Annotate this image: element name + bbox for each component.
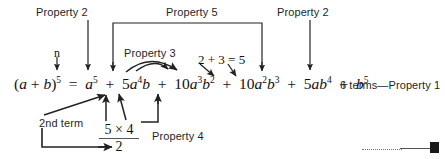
fraction-five-times-four-over-two: 5 × 4 2: [99, 122, 139, 154]
diagram-canvas: Property 2 Property 5 Property 2 Propert…: [0, 0, 445, 159]
binomial-equation: (a + b)5 = a5 + 5a4b + 10a3b2 + 10a2b3 +…: [14, 76, 369, 92]
label-property-2-left: Property 2: [36, 6, 88, 18]
label-sum-check: 2 + 3 = 5: [198, 52, 245, 67]
label-property-4: Property 4: [152, 130, 204, 142]
connector-fraction-to-third-term: [141, 95, 158, 122]
arrow-second-term-to-coefficient: [44, 95, 105, 115]
label-n-exponent: n: [54, 46, 60, 61]
equation-term-4: 10a2b3: [239, 75, 280, 92]
dotted-rule: [362, 149, 402, 150]
label-second-term: 2nd term: [39, 117, 83, 129]
fraction-numerator: 5 × 4: [99, 122, 139, 137]
solid-rule: [400, 148, 431, 149]
label-property-3: Property 3: [124, 47, 176, 59]
arc-property-3-outer: [126, 61, 177, 72]
equation-plus-2: +: [154, 75, 171, 92]
equation-term-3: 10a3b2: [174, 75, 215, 92]
label-property-5: Property 5: [166, 6, 218, 18]
equation-plus-3: +: [219, 75, 236, 92]
equation-equals: =: [65, 75, 82, 92]
arc-property-3-inner: [136, 63, 168, 71]
label-property-2-right: Property 2: [277, 6, 329, 18]
label-property-1: 6 terms—Property 1: [340, 79, 440, 91]
cursor-block: [430, 142, 439, 153]
equation-term-2: 5a4b: [122, 75, 150, 92]
arrow-to-exponent-four: [119, 94, 126, 120]
fraction-denominator: 2: [99, 139, 139, 154]
equation-term-5: 5ab4: [304, 75, 332, 92]
equation-plus-1: +: [102, 75, 119, 92]
equation-plus-4: +: [283, 75, 300, 92]
equation-lhs: (a + b)5: [14, 75, 61, 92]
equation-term-1: a5: [85, 75, 98, 92]
